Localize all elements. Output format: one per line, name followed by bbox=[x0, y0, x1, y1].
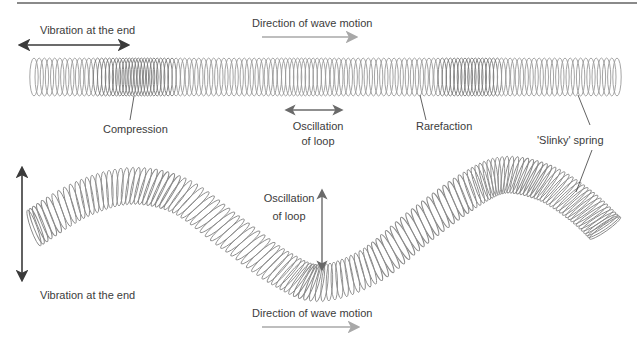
direction-label-top: Direction of wave motion bbox=[252, 17, 372, 29]
longitudinal-slinky-icon bbox=[30, 58, 621, 96]
vibration-label-bottom: Vibration at the end bbox=[40, 289, 135, 301]
transverse-slinky-icon bbox=[25, 156, 623, 303]
oscillation-label-top-line2: of loop bbox=[288, 135, 348, 147]
pointer-line-slinky bbox=[576, 150, 592, 192]
compression-label: Compression bbox=[103, 123, 168, 135]
rarefaction-label: Rarefaction bbox=[416, 120, 472, 132]
oscillation-label-top: Oscillation of loop bbox=[288, 120, 348, 147]
pointer-lines-top bbox=[130, 95, 590, 125]
oscillation-label-bottom-line2: of loop bbox=[258, 210, 320, 222]
direction-label-bottom: Direction of wave motion bbox=[252, 307, 372, 319]
oscillation-label-top-line1: Oscillation bbox=[288, 120, 348, 132]
slinky-spring-label: 'Slinky' spring bbox=[537, 134, 604, 146]
oscillation-label-bottom-line1: Oscillation bbox=[258, 192, 320, 204]
oscillation-label-bottom: Oscillation of loop bbox=[258, 192, 320, 222]
vibration-label-top: Vibration at the end bbox=[40, 24, 135, 36]
